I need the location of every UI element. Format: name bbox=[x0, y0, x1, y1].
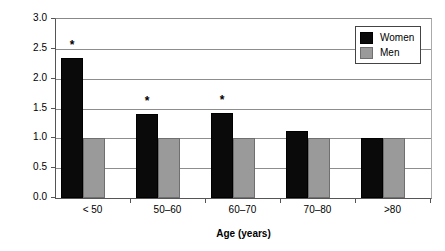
bar-men bbox=[233, 138, 255, 198]
legend-item: Women bbox=[360, 30, 414, 45]
y-axis-tick-label: 2.5 bbox=[18, 43, 47, 53]
significance-marker: * bbox=[136, 95, 158, 107]
bar-women bbox=[136, 114, 158, 198]
bar-group bbox=[281, 19, 356, 198]
x-axis-tick-label: < 50 bbox=[55, 204, 130, 216]
y-axis-tick-label: 0.0 bbox=[18, 192, 47, 202]
bar-men bbox=[83, 138, 105, 198]
x-axis-tick-labels: < 5050–6060–7070–80>80 bbox=[55, 204, 432, 220]
bar-chart-figure: Ratio 3.02.52.01.51.00.50.0 *** < 5050–6… bbox=[0, 0, 445, 251]
x-axis-title: Age (years) bbox=[55, 228, 432, 239]
y-axis-tick-label: 1.5 bbox=[18, 103, 47, 113]
bar-men bbox=[158, 138, 180, 198]
bar-women bbox=[361, 138, 383, 198]
y-axis-tick-label: 3.0 bbox=[18, 13, 47, 23]
legend: WomenMen bbox=[355, 26, 421, 64]
x-axis-tick-label: 70–80 bbox=[280, 204, 355, 216]
bar-women bbox=[61, 58, 83, 198]
bar-group: * bbox=[206, 19, 281, 198]
legend-item-label: Men bbox=[380, 47, 399, 58]
x-axis-tick-mark bbox=[355, 198, 356, 203]
x-axis-tick-label: 50–60 bbox=[130, 204, 205, 216]
y-axis-tick-labels: 3.02.52.01.51.00.50.0 bbox=[18, 18, 47, 197]
legend-item: Men bbox=[360, 45, 414, 60]
gray-square-swatch bbox=[360, 47, 373, 59]
x-axis-tick-mark bbox=[280, 198, 281, 203]
y-axis-tick-label: 2.0 bbox=[18, 73, 47, 83]
bar-group: * bbox=[56, 19, 131, 198]
x-axis-tick-mark bbox=[430, 198, 431, 203]
x-axis-tick-label: >80 bbox=[355, 204, 430, 216]
significance-marker: * bbox=[211, 94, 233, 106]
x-axis-tick-label: 60–70 bbox=[205, 204, 280, 216]
y-axis-tick-label: 1.0 bbox=[18, 132, 47, 142]
black-square-swatch bbox=[360, 32, 373, 44]
x-axis-tick-mark bbox=[205, 198, 206, 203]
significance-marker: * bbox=[61, 39, 83, 51]
bar-group: * bbox=[131, 19, 206, 198]
x-axis-tick-mark bbox=[130, 198, 131, 203]
legend-item-label: Women bbox=[380, 32, 414, 43]
bar-men bbox=[308, 138, 330, 198]
bar-women bbox=[286, 131, 308, 198]
y-axis-tick-label: 0.5 bbox=[18, 162, 47, 172]
bar-women bbox=[211, 113, 233, 198]
bar-men bbox=[383, 138, 405, 198]
